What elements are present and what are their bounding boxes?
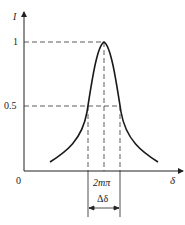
y-tick-1: 1 (13, 37, 18, 47)
guide-lines (24, 42, 120, 171)
x-axis-label: δ (170, 175, 175, 185)
y-axis-label: I (13, 12, 16, 22)
diagram-canvas (0, 0, 185, 225)
origin-label: 0 (16, 176, 21, 186)
y-tick-0-5: 0.5 (4, 101, 17, 111)
width-label: Δδ (97, 194, 108, 204)
center-label: 2mπ (93, 178, 110, 188)
